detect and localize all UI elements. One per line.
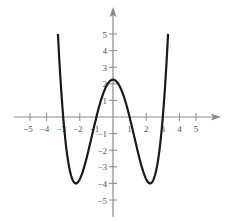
y-tick-label: −5 (97, 196, 107, 206)
y-tick-label: −4 (97, 179, 107, 189)
x-tick-label: −2 (73, 124, 83, 134)
x-tick-label: 4 (177, 124, 182, 134)
y-tick-label: 3 (103, 63, 108, 73)
x-tick-label: −5 (23, 124, 33, 134)
y-tick-label: −3 (97, 162, 107, 172)
y-tick-label: 4 (103, 46, 108, 56)
y-tick-label: 1 (103, 96, 108, 106)
x-tick-label: −4 (40, 124, 50, 134)
y-tick-label: 5 (103, 30, 108, 40)
x-tick-label: 2 (144, 124, 149, 134)
y-tick-label: −2 (97, 146, 107, 156)
function-graph: −5−4−3−2−112345−5−4−3−2−112345 (0, 0, 230, 221)
y-tick-label: −1 (97, 129, 107, 139)
x-tick-label: 5 (194, 124, 199, 134)
axes (14, 7, 221, 217)
